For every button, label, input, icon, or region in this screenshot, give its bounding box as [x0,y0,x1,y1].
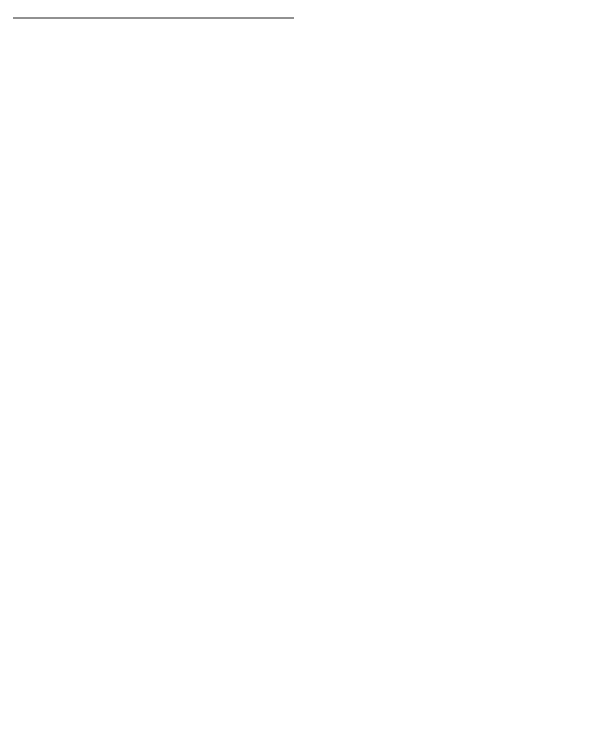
diagram-illustration [0,0,589,743]
diagram-canvas [0,0,589,743]
